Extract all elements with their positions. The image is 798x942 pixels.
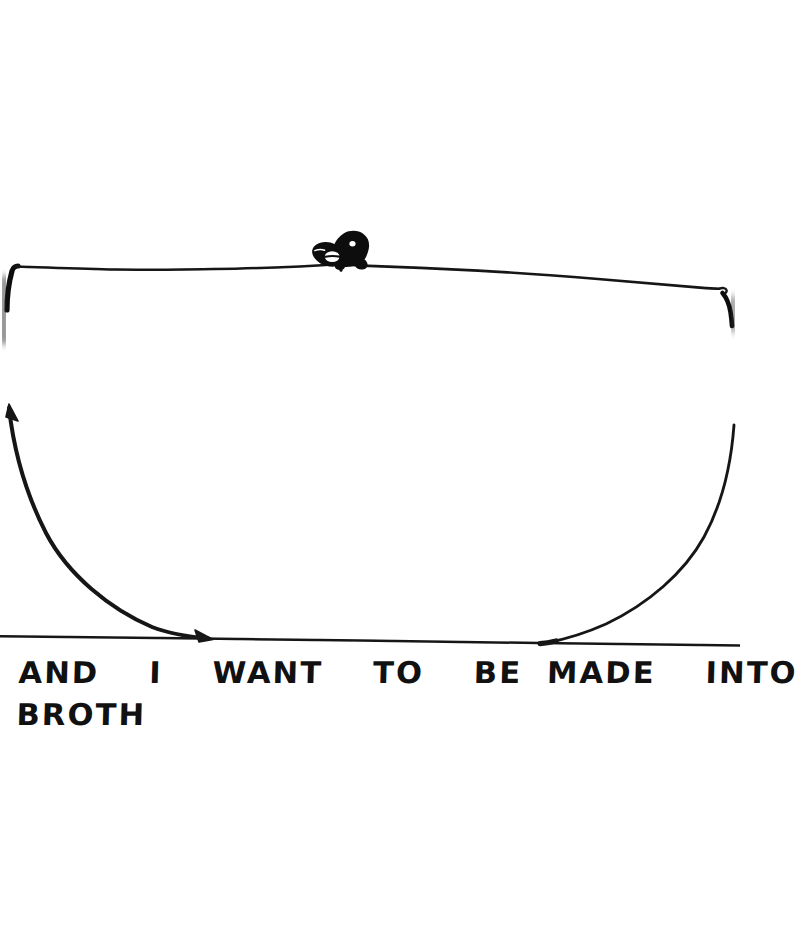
bowl-left-wall [9, 408, 208, 639]
bowl-right-wall [548, 425, 734, 643]
right-edge-ink-smudge [732, 300, 734, 328]
ink-smudges-group [4, 280, 734, 340]
creature-eye [349, 241, 355, 246]
table-surface-line [0, 636, 740, 645]
table-line-group [0, 636, 740, 645]
bowl-left-wall-arrowhead [6, 404, 18, 421]
creature-mouth-line [325, 256, 339, 257]
bowl-walls-group [6, 404, 734, 644]
bowl-left-wall-base-arrowhead [195, 630, 213, 642]
creature-foreleg [341, 262, 342, 270]
bowl-rim-right-segment [362, 266, 719, 289]
bowl-rim-group [7, 265, 732, 326]
left-edge-ink-smudge [4, 280, 5, 340]
bowl-rim-left-segment [16, 265, 326, 270]
